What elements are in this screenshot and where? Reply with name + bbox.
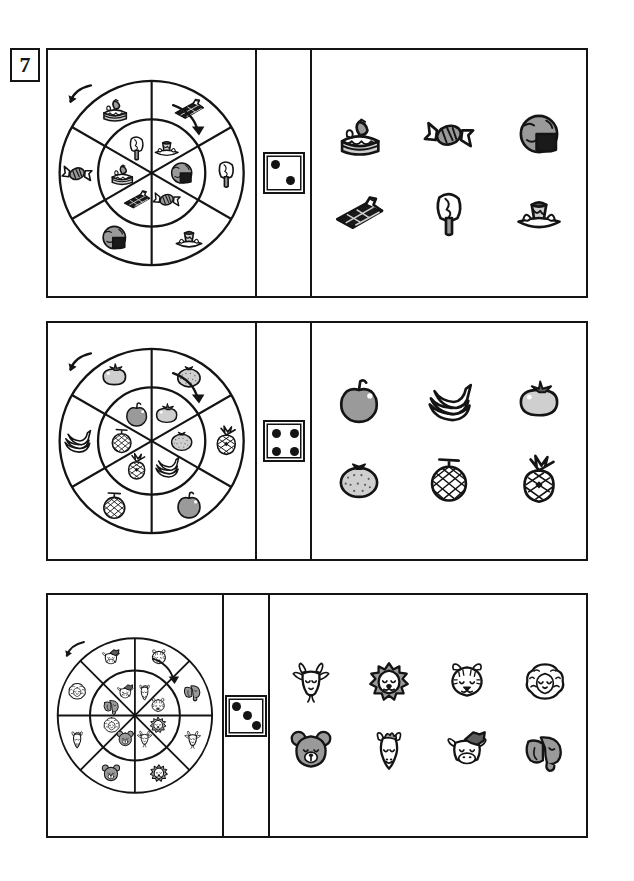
legend-item-lion: [358, 651, 420, 713]
die-cell: [257, 50, 312, 296]
strawberry-cake-icon: [104, 99, 126, 121]
die-two[interactable]: [263, 152, 305, 194]
sweets-spinner[interactable]: [48, 50, 255, 296]
die-pip: [272, 447, 281, 456]
lion-icon: [364, 657, 414, 707]
die-pip: [243, 711, 252, 720]
worksheet-row-sweets: [46, 48, 588, 298]
die-pip: [252, 721, 261, 730]
worksheet-sheet: 7: [0, 0, 634, 881]
legend-item-apple: [322, 366, 396, 438]
pineapple-icon: [217, 426, 235, 454]
legend-item-chocolate-bar: [322, 176, 396, 248]
die-three[interactable]: [225, 695, 267, 737]
sheep-icon: [104, 718, 119, 732]
pineapple-icon: [510, 451, 568, 509]
sheep-icon: [69, 684, 85, 699]
item-legend-grid: [312, 94, 586, 252]
bananas-icon: [420, 373, 478, 431]
fruits-spinner[interactable]: [48, 323, 255, 559]
die-cell: [224, 595, 270, 836]
worksheet-row-fruits: [46, 321, 588, 561]
lion-icon: [150, 765, 167, 781]
elephant-icon: [520, 725, 570, 775]
apple-icon: [178, 492, 200, 518]
legend-item-tiger: [436, 651, 498, 713]
legend-item-chocolate-round-cake: [502, 98, 576, 170]
elephant-icon: [184, 686, 199, 701]
legend-item-persimmon: [502, 366, 576, 438]
popsicle-icon: [420, 183, 478, 241]
apple-icon: [330, 373, 388, 431]
die-cell: [257, 323, 312, 559]
die-pip: [290, 429, 299, 438]
melon-icon: [104, 493, 125, 518]
legend-item-strawberry-cake: [322, 98, 396, 170]
bananas-icon: [65, 431, 90, 453]
chocolate-bar-icon: [330, 183, 388, 241]
animals-spinner-graphic: [48, 595, 222, 836]
legend-item-mandarin: [322, 444, 396, 516]
rotation-arrow-outer-left: [69, 85, 91, 103]
legend-item-popsicle: [412, 176, 486, 248]
die-pip: [232, 702, 241, 711]
strawberry-cake-icon: [330, 105, 388, 163]
legend-item-elephant: [514, 719, 576, 781]
horse-icon: [72, 732, 82, 748]
legend-item-bananas: [412, 366, 486, 438]
worksheet-row-animals: [46, 593, 588, 838]
chocolate-round-cake-icon: [172, 163, 192, 183]
animals-spinner[interactable]: [48, 595, 222, 836]
die-pip: [286, 176, 295, 185]
spinner-cell[interactable]: [48, 595, 224, 836]
fruits-spinner-graphic: [48, 323, 255, 559]
sheep-icon: [520, 657, 570, 707]
die-pip: [272, 429, 281, 438]
sweets-spinner-graphic: [48, 50, 255, 296]
legend-item-pineapple: [502, 444, 576, 516]
die-pip: [290, 447, 299, 456]
legend-item-wrapped-candy: [412, 98, 486, 170]
rotation-arrow-outer-left: [69, 353, 91, 371]
legend-item-goat: [280, 651, 342, 713]
popsicle-icon: [219, 162, 233, 187]
mandarin-icon: [330, 451, 388, 509]
rotation-arrow-outer-left: [65, 642, 84, 657]
wrapped-candy-icon: [420, 105, 478, 163]
wrapped-candy-icon: [62, 166, 92, 181]
legend-item-sheep: [514, 651, 576, 713]
persimmon-icon: [510, 373, 568, 431]
die-pip: [271, 160, 280, 169]
item-legend-grid: [312, 362, 586, 520]
item-legend-cell: [270, 595, 586, 836]
persimmon-icon: [103, 364, 125, 385]
goat-icon: [286, 657, 336, 707]
spinner-cell[interactable]: [48, 50, 257, 296]
item-legend-cell: [312, 50, 586, 296]
goat-icon: [185, 731, 201, 748]
chocolate-round-cake-icon: [510, 105, 568, 163]
chocolate-round-cake-icon: [103, 226, 125, 248]
exercise-number-box: 7: [10, 48, 40, 82]
cow-icon: [442, 725, 492, 775]
cow-icon: [103, 650, 120, 664]
legend-item-melon: [412, 444, 486, 516]
legend-item-horse: [358, 719, 420, 781]
spinner-cell[interactable]: [48, 323, 257, 559]
legend-item-cow: [436, 719, 498, 781]
horse-icon: [364, 725, 414, 775]
legend-item-bear: [280, 719, 342, 781]
pudding-plate-icon: [510, 183, 568, 241]
item-legend-cell: [312, 323, 586, 559]
tiger-icon: [152, 698, 164, 711]
bear-icon: [286, 725, 336, 775]
bear-icon: [102, 765, 119, 781]
pudding-plate-icon: [176, 232, 201, 247]
item-legend-grid: [270, 647, 586, 785]
legend-item-pudding-plate: [502, 176, 576, 248]
die-four[interactable]: [263, 420, 305, 462]
melon-icon: [420, 451, 478, 509]
tiger-icon: [442, 657, 492, 707]
